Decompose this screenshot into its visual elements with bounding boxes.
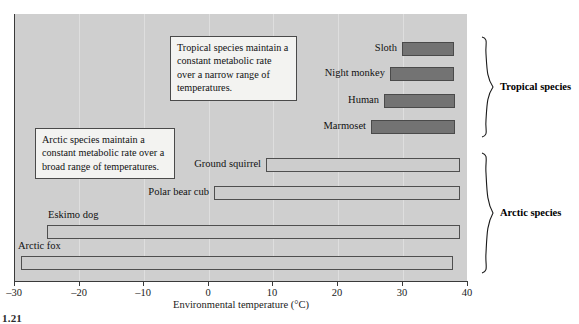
tick-label--20: –20 xyxy=(71,287,87,298)
bar-polar-bear-cub xyxy=(214,186,460,200)
curly-brace-icon xyxy=(479,152,495,274)
bracket-tropical xyxy=(479,36,495,138)
group-label-arctic: Arctic species xyxy=(500,207,561,218)
metabolic-rate-figure: Sloth Night monkey Human Marmoset Ground… xyxy=(0,0,579,324)
tick-label-10: 10 xyxy=(267,287,278,298)
bar-label-human: Human xyxy=(348,94,384,105)
tick-10 xyxy=(272,281,273,286)
bar-label-polar-bear-cub: Polar bear cub xyxy=(148,186,214,197)
curly-brace-icon xyxy=(479,36,495,138)
bar-label-night-monkey: Night monkey xyxy=(325,67,390,78)
bar-human xyxy=(384,94,455,108)
bar-eskimo-dog xyxy=(47,225,460,239)
x-axis-line xyxy=(14,281,468,282)
tick--30 xyxy=(14,281,15,286)
bracket-arctic xyxy=(479,152,495,274)
x-axis-title: Environmental temperature (°C) xyxy=(14,299,468,310)
tick--10 xyxy=(143,281,144,286)
bar-sloth xyxy=(402,42,454,56)
callout-tropical: Tropical species maintain a constant met… xyxy=(170,36,297,101)
tick-0 xyxy=(208,281,209,286)
tick-label-30: 30 xyxy=(397,287,408,298)
tick-label-20: 20 xyxy=(332,287,343,298)
bar-label-ground-squirrel: Ground squirrel xyxy=(194,158,266,169)
bar-label-sloth: Sloth xyxy=(375,42,402,53)
tick-30 xyxy=(402,281,403,286)
tick--20 xyxy=(79,281,80,286)
tick-label-40: 40 xyxy=(462,287,473,298)
tick-label-0: 0 xyxy=(205,287,210,298)
bar-label-arctic-fox: Arctic fox xyxy=(18,240,61,251)
bar-marmoset xyxy=(371,120,455,134)
figure-caption-number: 1.21 xyxy=(2,312,22,324)
group-label-tropical: Tropical species xyxy=(500,81,571,92)
bar-ground-squirrel xyxy=(266,158,460,172)
bar-label-eskimo-dog: Eskimo dog xyxy=(48,209,98,220)
tick-40 xyxy=(467,281,468,286)
bar-night-monkey xyxy=(390,67,454,81)
tick-20 xyxy=(337,281,338,286)
gridline-20 xyxy=(338,14,339,281)
bar-arctic-fox xyxy=(21,256,453,270)
bar-label-marmoset: Marmoset xyxy=(323,120,371,131)
tick-label--10: –10 xyxy=(135,287,151,298)
tick-label--30: –30 xyxy=(6,287,22,298)
callout-arctic: Arctic species maintain a constant metab… xyxy=(35,128,175,179)
